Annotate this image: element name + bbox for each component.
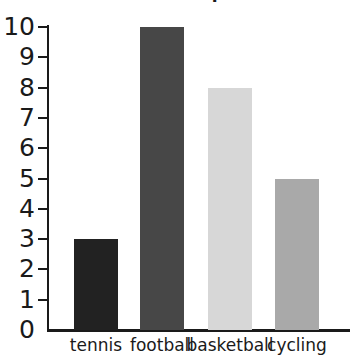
chart-title: Favourite sport xyxy=(0,0,357,2)
y-tick-7 xyxy=(38,117,48,119)
y-axis-label-3: 3 xyxy=(19,226,35,251)
y-axis-label-1: 1 xyxy=(19,287,35,312)
y-axis-label-5: 5 xyxy=(19,166,35,191)
y-tick-5 xyxy=(38,178,48,180)
y-tick-2 xyxy=(38,268,48,270)
y-tick-8 xyxy=(38,87,48,89)
bar-football[interactable] xyxy=(140,27,184,330)
y-axis-label-9: 9 xyxy=(19,44,35,69)
y-axis-label-10: 10 xyxy=(3,14,35,39)
y-axis-label-0: 0 xyxy=(19,317,35,342)
y-tick-6 xyxy=(38,147,48,149)
bar-tennis[interactable] xyxy=(74,239,118,330)
y-tick-10 xyxy=(38,26,48,28)
x-axis-label-cycling: cycling xyxy=(237,335,357,355)
bar-basketball[interactable] xyxy=(208,88,252,330)
y-axis-label-4: 4 xyxy=(19,196,35,221)
y-tick-1 xyxy=(38,299,48,301)
y-axis-label-8: 8 xyxy=(19,75,35,100)
y-tick-3 xyxy=(38,238,48,240)
y-axis-label-7: 7 xyxy=(19,105,35,130)
bar-chart: Favourite sport 012345678910 tennisfootb… xyxy=(0,0,357,363)
y-tick-9 xyxy=(38,56,48,58)
y-tick-4 xyxy=(38,208,48,210)
y-axis-label-2: 2 xyxy=(19,256,35,281)
bar-cycling[interactable] xyxy=(275,179,319,331)
y-axis-label-6: 6 xyxy=(19,135,35,160)
